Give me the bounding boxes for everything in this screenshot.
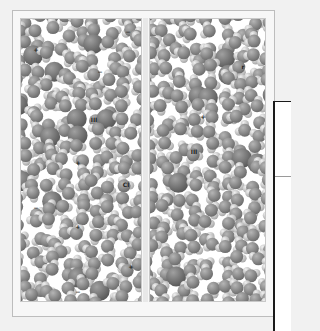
left-panel-molecules [20, 18, 142, 302]
ion-label: − [33, 205, 38, 211]
callout-rule [275, 176, 291, 177]
water-molecules-left [21, 19, 142, 302]
right-panel-molecules [149, 18, 266, 302]
ion-label: III [91, 117, 98, 123]
ion-label: + [75, 160, 80, 166]
ion-label: − [125, 29, 130, 35]
water-molecules-right [150, 19, 266, 302]
callout-box [273, 101, 291, 331]
ion-label: + [33, 47, 38, 53]
ion-label: Cl [123, 182, 129, 188]
ion-label: − [97, 69, 102, 75]
ion-label: + [200, 114, 205, 120]
ion-label: III [191, 149, 198, 155]
ion-label: + [75, 224, 80, 230]
ion-label: r [242, 64, 245, 70]
ion-label: + [128, 264, 133, 270]
panel-divider [143, 18, 148, 302]
ion-label: − [75, 289, 80, 295]
